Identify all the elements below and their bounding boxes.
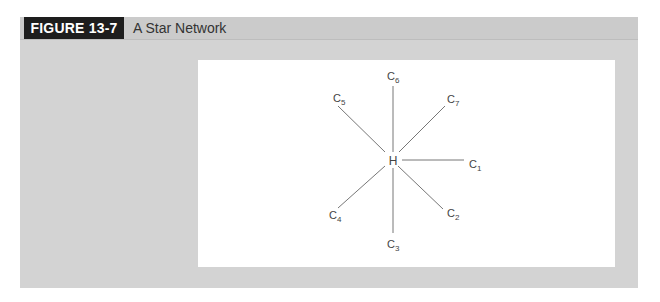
node-c4: C4 [329,209,342,224]
diagram-canvas: H C1 C2 C3 C4 C5 C6 C7 [198,60,615,267]
edges [338,86,464,233]
edge-h-c4 [338,166,385,208]
node-labels: C1 C2 C3 C4 C5 C6 C7 [329,70,482,253]
figure-header: FIGURE 13-7 A Star Network [20,17,638,40]
edge-h-c5 [338,106,385,152]
edge-h-c2 [398,166,443,209]
node-c7: C7 [447,93,460,108]
node-c6: C6 [387,70,400,85]
node-c1: C1 [469,158,482,173]
node-c3: C3 [387,238,400,253]
figure-title: A Star Network [133,17,226,39]
edge-h-c7 [399,106,445,152]
star-network-diagram: H C1 C2 C3 C4 C5 C6 C7 [198,60,615,267]
node-c5: C5 [333,92,346,107]
node-c2: C2 [447,207,460,222]
hub-label: H [389,154,398,168]
figure-number: FIGURE 13-7 [24,17,124,39]
